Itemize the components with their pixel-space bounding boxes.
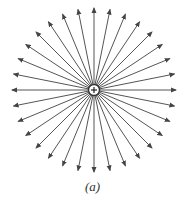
field-line-arrow xyxy=(99,74,175,89)
field-line-arrow xyxy=(98,94,152,148)
field-diagram xyxy=(0,0,185,180)
field-line-arrow xyxy=(14,91,90,106)
field-line-arrow xyxy=(99,91,175,106)
field-line-arrow xyxy=(78,10,93,86)
positive-charge xyxy=(89,85,100,96)
field-line-arrow xyxy=(95,95,110,171)
field-line-arrow xyxy=(98,32,152,86)
field-line-arrow xyxy=(36,94,90,148)
field-line-arrow xyxy=(36,32,90,86)
field-line-arrow xyxy=(14,74,90,89)
figure-caption: (a) xyxy=(0,179,185,195)
field-line-arrow xyxy=(95,10,110,86)
field-line-arrow xyxy=(78,95,93,171)
